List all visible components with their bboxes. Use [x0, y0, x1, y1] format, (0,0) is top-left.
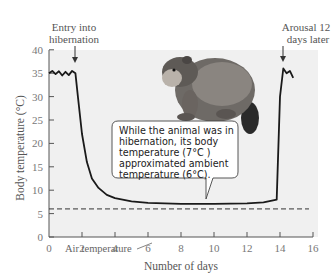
y-tick-label: 25	[32, 114, 44, 126]
air-temperature-label: Air temperature	[65, 243, 132, 254]
y-tick-label: 20	[32, 137, 44, 149]
callout-line: While the animal was in	[119, 125, 234, 136]
x-tick-label: 16	[308, 242, 320, 254]
entry-annotation-line1: Entry into	[52, 21, 97, 33]
hibernation-chart: 0510152025303540 0246810121416 Entry int…	[0, 0, 336, 276]
arousal-annotation-line1: Arousal 12	[282, 21, 331, 33]
y-tick-label: 40	[32, 44, 44, 56]
x-tick-label: 8	[178, 242, 184, 254]
y-tick-label: 30	[32, 91, 44, 103]
x-tick-label: 14	[275, 242, 287, 254]
y-tick-label: 5	[38, 208, 44, 220]
x-tick-label: 12	[242, 242, 253, 254]
y-axis-title: Body temperature (°C)	[14, 95, 27, 201]
callout-line: approximated ambient	[119, 158, 229, 169]
x-axis-title: Number of days	[144, 260, 219, 273]
callout-line: temperature (6°C).	[119, 169, 211, 180]
y-tick-label: 35	[32, 67, 44, 79]
y-tick-label: 15	[32, 161, 44, 173]
x-tick-label: 0	[46, 242, 52, 254]
entry-annotation-line2: hibernation	[49, 33, 100, 45]
callout-line: temperature (7°C )	[119, 147, 211, 158]
y-tick-label: 0	[38, 231, 44, 243]
callout-line: hibernation, its body	[119, 136, 218, 147]
x-tick-label: 10	[209, 242, 221, 254]
y-axis: 0510152025303540	[32, 44, 54, 243]
arousal-annotation-line2: days later	[287, 33, 330, 45]
y-tick-label: 10	[32, 184, 44, 196]
